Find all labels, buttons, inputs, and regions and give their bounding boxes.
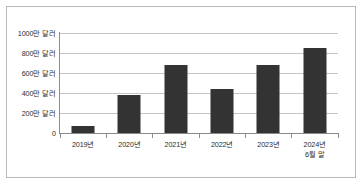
y-tick-label-1000: 1000만 달러: [4, 28, 56, 38]
x-label-2024-june: 2024년 6월 말: [292, 140, 338, 159]
bar-slot: [106, 33, 152, 133]
x-tick-mark: [106, 134, 107, 138]
x-label-line: 2022년: [199, 140, 245, 150]
x-label-line: 2019년: [60, 140, 106, 150]
x-tick-mark: [152, 134, 153, 138]
bar-2024-june[interactable]: [303, 48, 326, 133]
x-label-line: 2021년: [153, 140, 199, 150]
bar-2019[interactable]: [72, 126, 95, 133]
bar-slot: [245, 33, 291, 133]
x-label-line: 2023년: [245, 140, 291, 150]
x-tick-mark: [291, 134, 292, 138]
x-tick-mark: [199, 134, 200, 138]
y-tick-label-400: 400만 달러: [4, 88, 56, 98]
bar-2021[interactable]: [164, 65, 187, 133]
x-label-2020: 2020년: [106, 140, 152, 150]
plot-area: [60, 33, 338, 133]
y-tick-label-600: 600만 달러: [4, 68, 56, 78]
x-label-line: 6월 말: [292, 150, 338, 160]
x-label-2019: 2019년: [60, 140, 106, 150]
y-tick-label-0: 0: [4, 129, 56, 138]
x-label-line: 2024년: [292, 140, 338, 150]
x-tick-mark: [245, 134, 246, 138]
bar-slot: [153, 33, 199, 133]
y-axis-tick-labels: 1000만 달러 800만 달러 600만 달러 400만 달러 200만 달러…: [0, 0, 56, 187]
x-label-2023: 2023년: [245, 140, 291, 150]
bar-slot: [60, 33, 106, 133]
x-tick-mark: [60, 134, 61, 138]
bar-slot: [292, 33, 338, 133]
x-label-line: 2020년: [106, 140, 152, 150]
x-axis-tick-labels: 2019년 2020년 2021년 2022년 2023년 2024년 6월 말: [60, 140, 338, 180]
bar-2023[interactable]: [257, 65, 280, 133]
x-label-2021: 2021년: [153, 140, 199, 150]
y-tick-label-200: 200만 달러: [4, 108, 56, 118]
bar-slot: [199, 33, 245, 133]
x-label-2022: 2022년: [199, 140, 245, 150]
bar-2022[interactable]: [211, 89, 234, 133]
chart-figure: 1000만 달러 800만 달러 600만 달러 400만 달러 200만 달러…: [0, 0, 363, 187]
bar-2020[interactable]: [118, 95, 141, 133]
y-tick-label-800: 800만 달러: [4, 48, 56, 58]
x-tick-mark: [338, 134, 339, 138]
